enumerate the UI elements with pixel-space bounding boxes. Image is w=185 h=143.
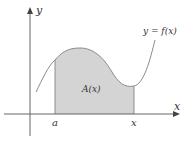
area-label: A(x) — [81, 84, 101, 94]
right-bound-label: x — [131, 117, 137, 128]
area-function-diagram: y x y = f(x) A(x) a x — [0, 0, 185, 143]
curve-label: y = f(x) — [142, 26, 177, 36]
y-axis-label: y — [35, 4, 43, 17]
area-region — [55, 48, 134, 114]
y-axis-arrow-icon — [27, 7, 33, 14]
left-bound-label: a — [52, 117, 58, 128]
x-axis-label: x — [174, 100, 181, 113]
